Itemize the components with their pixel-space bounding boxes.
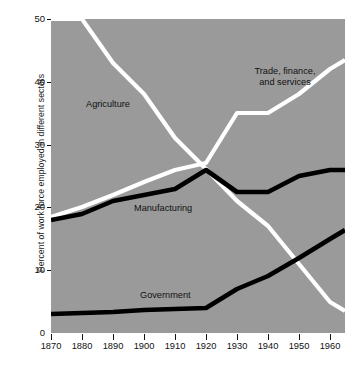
x-tick-1940	[268, 334, 269, 340]
y-tick-label-50: 50	[17, 13, 45, 24]
x-tick-label-1960: 1960	[313, 341, 347, 351]
y-tick-label-30: 30	[17, 139, 45, 150]
x-tick-1950	[299, 334, 300, 340]
x-tick-1900	[144, 334, 145, 340]
x-tick-label-1880: 1880	[65, 341, 99, 351]
x-tick-label-1920: 1920	[189, 341, 223, 351]
x-tick-1870	[51, 334, 52, 340]
trade-label-line2: and services	[259, 77, 311, 87]
x-tick-label-1950: 1950	[282, 341, 316, 351]
x-tick-1890	[113, 334, 114, 340]
x-tick-1920	[206, 334, 207, 340]
x-tick-1930	[237, 334, 238, 340]
series-label-government: Government	[140, 290, 191, 301]
series-line-manufacturing	[51, 170, 345, 220]
series-line-government	[51, 230, 345, 314]
y-tick-label-40: 40	[17, 76, 45, 87]
x-tick-1960	[330, 334, 331, 340]
x-tick-label-1870: 1870	[34, 341, 68, 351]
x-tick-label-1910: 1910	[158, 341, 192, 351]
series-label-trade-finance-services: Trade, finance, and services	[239, 66, 331, 88]
series-label-agriculture: Agriculture	[86, 99, 130, 110]
chart-figure: Percent of work force employed in differ…	[0, 0, 361, 367]
x-tick-label-1940: 1940	[251, 341, 285, 351]
x-tick-label-1930: 1930	[220, 341, 254, 351]
x-tick-1880	[82, 334, 83, 340]
y-tick-label-20: 20	[17, 201, 45, 212]
x-tick-1910	[175, 334, 176, 340]
x-tick-label-1890: 1890	[96, 341, 130, 351]
trade-label-line1: Trade, finance,	[255, 66, 316, 76]
y-tick-label-10: 10	[17, 264, 45, 275]
y-tick-label-0: 0	[17, 327, 45, 338]
series-label-manufacturing: Manufacturing	[134, 203, 192, 214]
x-tick-label-1900: 1900	[127, 341, 161, 351]
